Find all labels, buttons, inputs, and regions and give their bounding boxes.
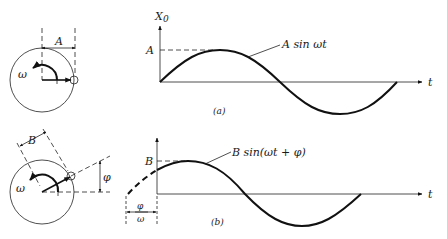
angular-velocity-label-a: ω <box>18 68 27 81</box>
time-shift-denominator: ω <box>137 214 145 224</box>
phasor-amplitude-label-b: B <box>27 134 36 147</box>
panel-caption-b: (b) <box>211 217 224 227</box>
time-shift-numerator: φ <box>137 201 144 211</box>
panel-b: B ω φ t B B sin(ωt + φ) φ ω (b) <box>10 129 433 227</box>
curve-leader-a <box>248 45 280 57</box>
harmonic-motion-diagram: A ω X 0 t A A sin ωt (a) <box>0 0 447 239</box>
t-axis-label-a: t <box>428 76 433 89</box>
amplitude-label-a: A <box>145 44 154 57</box>
curve-label-a: A sin ωt <box>281 38 327 51</box>
phasor-amplitude-label-a: A <box>54 35 63 48</box>
curve-leader-b <box>205 152 231 164</box>
phasor-circle-b <box>10 129 110 224</box>
sine-curve-b <box>157 161 361 226</box>
panel-caption-a: (a) <box>213 106 226 116</box>
panel-a: A ω X 0 t A A sin ωt (a) <box>10 10 433 116</box>
sine-curve-lead-b <box>128 170 157 194</box>
t-axis-label-b: t <box>428 188 433 201</box>
curve-label-b: B sin(ωt + φ) <box>231 146 306 159</box>
y-axis-subscript-a: 0 <box>163 14 169 24</box>
phase-angle-label-b: φ <box>103 171 111 184</box>
amplitude-label-b: B <box>144 155 153 168</box>
angular-velocity-label-b: ω <box>16 182 25 195</box>
